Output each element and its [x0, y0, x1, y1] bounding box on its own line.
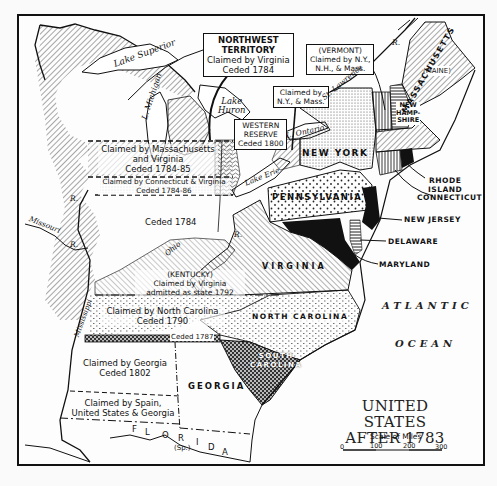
label-line: and Virginia: [98, 154, 218, 164]
label-line: N.Y., & Mass.: [277, 97, 325, 106]
florida-letter: O: [162, 430, 169, 440]
florida-letter: A: [222, 447, 228, 457]
label-line: (VERMONT): [310, 46, 370, 55]
st-lawrence-r-label: R.: [392, 38, 400, 48]
ocean-label: OCEAN: [395, 338, 456, 349]
new-jersey-callout: NEW JERSEY: [404, 215, 461, 225]
connecticut: [376, 150, 402, 175]
label-line: SOUTH: [250, 352, 302, 361]
georgia-claim-label: Claimed by Georgia Ceded 1802: [80, 358, 170, 378]
label-line: Claimed by Virginia: [207, 55, 290, 65]
maryland-callout: MARYLAND: [379, 260, 430, 270]
connecticut-callout: CONNECTICUT: [417, 193, 482, 203]
florida-letter: D: [208, 442, 215, 452]
florida-letter: F: [132, 424, 137, 434]
scale-tick: 0: [340, 442, 344, 452]
mississippi-r-label: R.: [70, 194, 78, 204]
label-line: TERRITORY: [207, 45, 290, 55]
florida-letter: R: [178, 433, 184, 443]
kentucky-label: (KENTUCKY) Claimed by Virginia admitted …: [135, 270, 245, 297]
conn-virginia-label: Claimed by Connecticut & Virginia Ceded …: [98, 178, 230, 195]
spanish-note: (Sp.): [174, 443, 191, 453]
georgia-label: GEORGIA: [188, 381, 245, 391]
label-line: admitted as state 1792: [135, 288, 245, 297]
label-line: SHIRE: [396, 117, 420, 125]
label-line: Claimed by Spain,: [68, 398, 178, 408]
label-line: Claimed by Massachusetts: [98, 144, 218, 154]
vermont: [372, 92, 392, 132]
florida-letter: I: [196, 437, 199, 447]
ny-mass-claim-label: Claimed by N.Y., & Mass.: [273, 86, 329, 108]
label-line: (KENTUCKY): [135, 270, 245, 279]
northwest-territory-label: NORTHWEST TERRITORY Claimed by Virginia …: [203, 33, 294, 77]
label-line: Ceded 1784: [207, 65, 290, 75]
pennsylvania-label: PENNSYLVANIA: [272, 192, 362, 202]
ceded-1784-label: Ceded 1784: [145, 217, 197, 227]
scale-tick: 300: [435, 442, 447, 452]
scale-tick: 200: [403, 441, 415, 451]
label-line: RESERVE: [238, 130, 283, 139]
title-line: UNITED STATES: [340, 398, 450, 430]
rhode-island-callout: RHODE ISLAND: [428, 176, 462, 194]
label-line: Claimed by North Carolina: [100, 306, 225, 316]
label-line: CAROLINA: [250, 361, 302, 370]
florida-letter: L: [145, 427, 150, 437]
label-line: Ceded 1784-86: [98, 187, 230, 196]
label-line: NORTHWEST: [207, 35, 290, 45]
label-line: Claimed by Virginia: [135, 279, 245, 288]
north-carolina-claim-label: Claimed by North Carolina Ceded 1790: [100, 306, 225, 326]
label-line: United States & Georgia: [68, 408, 178, 418]
label-line: Claimed by N.Y.,: [310, 55, 370, 64]
virginia-label: VIRGINIA: [262, 262, 327, 272]
label-line: WESTERN: [238, 121, 283, 130]
south-carolina-label: SOUTH CAROLINA: [250, 352, 302, 370]
missouri-r-label: R.: [70, 240, 78, 250]
ohio-r-label: R.: [234, 230, 242, 240]
north-carolina-label: NORTH CAROLINA: [252, 312, 348, 322]
label-line: Huron: [218, 106, 246, 115]
label-line: Claimed by Georgia: [80, 358, 170, 368]
label-line: RHODE: [428, 176, 462, 185]
atlantic-label: ATLANTIC: [382, 300, 473, 311]
new-york-label: NEW YORK: [302, 148, 369, 158]
western-reserve-label: WESTERN RESERVE Ceded 1800: [234, 119, 287, 150]
label-line: Ceded 1802: [80, 368, 170, 378]
label-line: Claimed by: [277, 88, 325, 97]
lake-huron-label: Lake Huron: [218, 97, 246, 115]
label-line: Ceded 1790: [100, 316, 225, 326]
label-line: Ceded 1800: [238, 139, 283, 148]
delaware-callout: DELAWARE: [388, 237, 438, 247]
mass-virginia-label: Claimed by Massachusetts and Virginia Ce…: [98, 144, 218, 174]
scale-tick: 100: [370, 441, 382, 451]
ceded-1787-label: Ceded 1787: [170, 333, 214, 341]
spain-claim-label: Claimed by Spain, United States & Georgi…: [68, 398, 178, 418]
label-line: Ceded 1784-85: [98, 164, 218, 174]
